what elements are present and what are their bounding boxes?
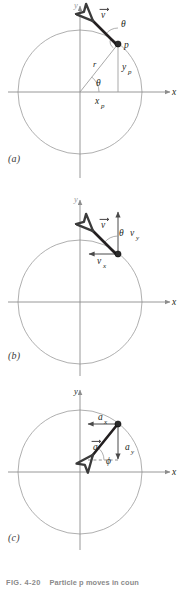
svg-text:v: v	[101, 220, 106, 230]
figure-caption: FIG. 4-20 Particle p moves in coun	[6, 578, 189, 587]
svg-text:p: p	[100, 102, 105, 110]
phi-label-c: ϕ	[106, 456, 111, 466]
svg-text:a: a	[93, 442, 98, 452]
y-axis-label-c: y	[73, 386, 78, 396]
theta-arc-b	[104, 236, 118, 243]
svg-text:x: x	[102, 262, 107, 270]
velocity-label-b: v	[100, 218, 109, 230]
svg-text:y: y	[130, 448, 135, 456]
yp-label-a: y p	[121, 62, 132, 76]
svg-text:p: p	[127, 68, 132, 76]
figure-caption-code: FIG. 4-20	[6, 578, 41, 587]
xp-label-a: x p	[94, 96, 105, 110]
panel-label-b: (b)	[8, 350, 20, 361]
y-axis-label-b: y	[73, 194, 78, 204]
panel-c-diagram: x y a ϕ a x a y	[0, 380, 189, 560]
svg-text:v: v	[97, 256, 102, 266]
panel-b-diagram: x y v θ v x v y	[0, 190, 189, 380]
panel-label-c: (c)	[8, 532, 20, 543]
velocity-label-a: v	[100, 8, 109, 20]
panel-label-a: (a)	[8, 153, 20, 164]
svg-text:a: a	[125, 442, 130, 452]
theta-arc-p-a	[106, 28, 118, 34]
svg-text:y: y	[121, 62, 127, 72]
x-axis-label-c: x	[171, 467, 177, 477]
panel-c-acceleration: x y a ϕ a x a y (c)	[0, 380, 189, 560]
panel-a-position: x y p v θ θ r x p y p (a)	[0, 0, 189, 190]
x-axis-label-a: x	[171, 87, 177, 97]
vy-label-b: v y	[130, 228, 140, 242]
figure-uniform-circular-motion: x y p v θ θ r x p y p (a)	[0, 0, 189, 590]
vx-label-b: v x	[97, 256, 107, 270]
theta-label-b: θ	[119, 228, 124, 238]
svg-text:x: x	[94, 96, 100, 106]
svg-text:y: y	[135, 234, 140, 242]
particle-label-a: p	[123, 40, 129, 50]
y-axis-label-a: y	[73, 0, 78, 10]
x-axis-label-b: x	[171, 297, 177, 307]
panel-b-velocity: x y v θ v x v y (b)	[0, 190, 189, 380]
svg-text:a: a	[98, 412, 103, 422]
radius-label-a: r	[93, 59, 97, 69]
panel-a-diagram: x y p v θ θ r x p y p	[0, 0, 189, 190]
ay-label-c: a y	[125, 442, 135, 456]
svg-text:v: v	[101, 10, 106, 20]
svg-text:v: v	[130, 228, 135, 238]
theta-label-origin-a: θ	[96, 78, 101, 88]
theta-label-p-a: θ	[121, 19, 126, 29]
particle-dot-b	[115, 251, 121, 257]
particle-dot-a	[115, 41, 121, 47]
figure-caption-text: Particle p moves in coun	[49, 578, 138, 587]
velocity-vector-a	[92, 20, 117, 45]
velocity-vector-b	[92, 230, 117, 255]
particle-dot-c	[115, 421, 121, 427]
